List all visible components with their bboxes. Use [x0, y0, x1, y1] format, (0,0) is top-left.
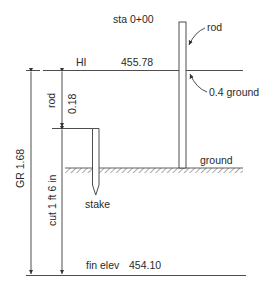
- stake: [93, 129, 100, 196]
- rod-dimension-value: 0.18: [66, 93, 78, 114]
- cut-dimension-label: cut 1 ft 6 in: [46, 174, 58, 226]
- rod-callout-label: rod: [207, 21, 222, 33]
- survey-cut-diagram: sta 0+00 HI 455.78 rod 0.4 ground ground…: [0, 0, 274, 293]
- ground-label: ground: [200, 154, 233, 166]
- rod-dimension-label: rod: [45, 93, 57, 108]
- ground-reading-callout-arrow: [190, 74, 207, 92]
- fin-elev-label: fin elev: [86, 259, 120, 271]
- diagram-canvas: sta 0+00 HI 455.78 rod 0.4 ground ground…: [0, 0, 274, 293]
- ground-line: [65, 168, 243, 173]
- rod-callout-arrow: [189, 28, 205, 45]
- station-label: sta 0+00: [113, 13, 154, 25]
- fin-elev-value: 454.10: [129, 259, 161, 271]
- stake-label: stake: [85, 198, 110, 210]
- gr-dimension-label: GR 1.68: [14, 149, 26, 188]
- hi-value: 455.78: [121, 56, 153, 68]
- hi-label: HI: [76, 56, 87, 68]
- leveling-rod: [179, 22, 186, 168]
- ground-reading-label: 0.4 ground: [209, 86, 259, 98]
